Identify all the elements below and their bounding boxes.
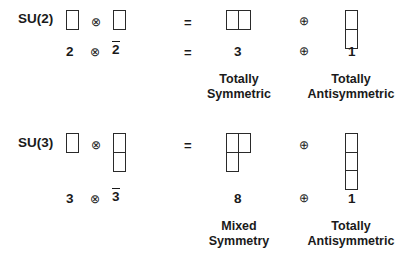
tableau-row	[226, 10, 249, 30]
tableau-cell	[226, 152, 239, 172]
oplus-operator-dims-su2: ⊕	[299, 45, 309, 57]
tableau-single-box	[113, 10, 125, 29]
dim-right-value-su3: 3	[112, 189, 120, 204]
tableau-cell	[345, 10, 358, 30]
caption-second-result-su2: Totally Antisymmetric	[296, 72, 406, 102]
group-label-su2: SU(2)	[18, 12, 53, 26]
equals-sign-dims-su2: =	[184, 46, 192, 59]
tableau-row	[66, 133, 78, 153]
equals-sign-su3: =	[184, 139, 192, 152]
caption-result-su2: Totally Symmetric	[199, 72, 279, 102]
su3-result-tableau	[226, 133, 249, 170]
tableau-two-box-column	[345, 10, 357, 47]
su2-result-tableau	[226, 10, 249, 29]
tableau-cell	[66, 10, 79, 30]
tableau-cell	[345, 133, 358, 153]
tableau-single-box	[66, 133, 78, 152]
caption-second-result-su3: Totally Antisymmetric	[296, 219, 406, 249]
tableau-row	[345, 152, 357, 172]
su2-second-result-tableau	[345, 10, 357, 47]
dim-right-conjugate-su3: 3	[112, 188, 120, 204]
dim-result-su3: 8	[234, 192, 242, 206]
tableau-cell	[66, 133, 79, 153]
tableau-cell	[113, 10, 126, 30]
tableau-cell	[113, 152, 126, 172]
group-label-su3: SU(3)	[18, 136, 53, 150]
tableau-two-box-column	[113, 133, 125, 170]
tensor-operator-dims-su3: ⊗	[90, 193, 100, 205]
dim-right-value-su2: 2	[112, 42, 120, 57]
tableau-cell	[238, 133, 251, 153]
tableau-three-box-column	[345, 133, 357, 189]
tableau-cell	[345, 152, 358, 172]
oplus-operator-su3: ⊕	[299, 139, 309, 151]
tableau-row	[113, 10, 125, 30]
su3-second-result-tableau	[345, 133, 357, 189]
tableau-row	[113, 152, 125, 172]
dim-left-su3: 3	[66, 192, 74, 206]
su2-right-tableau	[113, 10, 125, 29]
tensor-operator-su3: ⊗	[91, 139, 101, 151]
tensor-operator-dims-su2: ⊗	[90, 46, 100, 58]
su3-right-tableau	[113, 133, 125, 170]
dim-second-result-su3: 1	[348, 192, 356, 206]
tableau-two-box-row	[226, 10, 249, 29]
oplus-operator-dims-su3: ⊕	[299, 192, 309, 204]
dim-right-conjugate-su2: 2	[112, 41, 120, 57]
tableau-single-box	[66, 10, 78, 29]
dim-left-su2: 2	[66, 45, 74, 59]
tableau-row	[345, 170, 357, 190]
tableau-l-shape-three-box	[226, 133, 249, 170]
tensor-operator-su2: ⊗	[91, 16, 101, 28]
equals-sign-su2: =	[184, 16, 192, 29]
tableau-row	[226, 152, 238, 172]
tableau-row	[66, 10, 78, 30]
tableau-cell	[113, 133, 126, 153]
tableau-row	[345, 133, 357, 153]
tableau-cell	[238, 10, 251, 30]
tableau-row	[226, 133, 249, 153]
tableau-row	[113, 133, 125, 153]
dim-second-result-su2: 1	[348, 45, 356, 59]
dim-result-su2: 3	[234, 45, 242, 59]
caption-result-su3: Mixed Symmetry	[199, 219, 279, 249]
su3-left-tableau	[66, 133, 78, 152]
oplus-operator-su2: ⊕	[299, 15, 309, 27]
tableau-row	[345, 10, 357, 30]
su2-left-tableau	[66, 10, 78, 29]
tableau-cell	[345, 170, 358, 190]
